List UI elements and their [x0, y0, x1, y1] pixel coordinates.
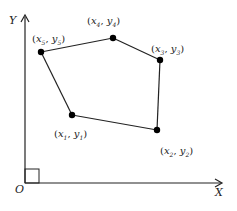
origin-label: O: [15, 183, 24, 196]
edge-p5-p1: [41, 52, 72, 115]
vertex-label-p1: (x1, y1): [54, 128, 87, 141]
vertex-p5: [38, 49, 44, 55]
vertex-label-p3: (x3, y3): [151, 43, 184, 56]
vertex-label-p4: (x4, y4): [87, 15, 120, 28]
vertex-p4: [110, 35, 116, 41]
x-axis-label: X: [214, 186, 224, 199]
vertex-p1: [69, 112, 75, 118]
y-axis-label: Y: [9, 14, 18, 27]
vertex-p2: [154, 127, 160, 133]
polygon-diagram: Y X O (x1, y1)(x2, y2)(x3, y3)(x4, y4)(x…: [0, 0, 237, 211]
vertex-label-p5: (x5, y5): [32, 33, 65, 46]
polygon-edges: [41, 38, 160, 130]
vertex-p3: [157, 57, 163, 63]
edge-p2-p3: [157, 60, 160, 130]
vertex-label-p2: (x2, y2): [160, 145, 193, 158]
right-angle-marker: [25, 169, 39, 183]
